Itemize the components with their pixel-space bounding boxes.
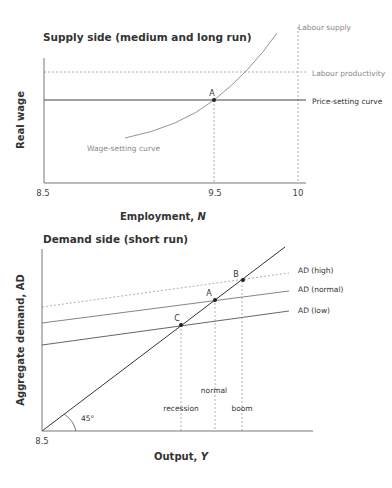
ad-low-line (42, 311, 289, 345)
boom-label: boom (231, 404, 252, 413)
ad-high-label: AD (high) (298, 266, 334, 275)
recession-label: recession (163, 404, 199, 413)
supply-point-a-label: A (209, 89, 215, 98)
price-setting-label: Price-setting curve (312, 97, 383, 106)
ad-low-label: AD (low) (298, 306, 330, 315)
demand-point-c-label: C (174, 314, 180, 323)
labour-productivity-label: Labour productivity (312, 69, 386, 78)
supply-x-axis-label: Employment, N (120, 211, 207, 222)
angle-label: 45° (81, 414, 95, 423)
supply-tick-9-5: 9.5 (208, 188, 222, 198)
supply-chart-title: Supply side (medium and long run) (43, 31, 251, 43)
angle-arc (64, 414, 76, 431)
supply-point-a (212, 98, 216, 102)
demand-point-b-label: B (233, 270, 239, 279)
ad-high-line (42, 273, 289, 307)
chart-canvas: Supply side (medium and long run) Real w… (0, 0, 392, 488)
demand-point-a (213, 298, 217, 302)
wage-setting-curve (125, 33, 277, 138)
ad-normal-label: AD (normal) (298, 285, 343, 294)
supply-chart: Supply side (medium and long run) Real w… (15, 23, 386, 222)
supply-y-axis-label: Real wage (15, 91, 26, 149)
demand-point-c (179, 323, 183, 327)
supply-tick-8-5: 8.5 (36, 188, 50, 198)
wage-setting-label: Wage-setting curve (87, 144, 160, 153)
demand-origin-tick: 8.5 (35, 436, 49, 446)
supply-tick-10: 10 (293, 188, 304, 198)
demand-point-a-label: A (206, 289, 212, 298)
demand-point-b (241, 278, 245, 282)
labour-supply-label: Labour supply (298, 23, 352, 32)
demand-chart: Demand side (short run) Aggregate demand… (15, 233, 343, 462)
normal-label: normal (201, 386, 227, 395)
demand-chart-title: Demand side (short run) (43, 233, 188, 245)
ad-normal-line (42, 291, 289, 323)
demand-x-axis-label: Output, Y (154, 451, 210, 462)
demand-y-axis-label: Aggregate demand, AD (15, 274, 26, 405)
